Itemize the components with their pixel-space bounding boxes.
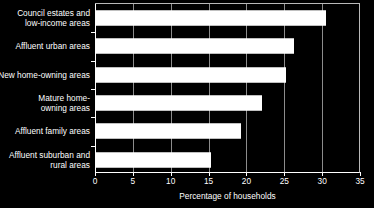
x-axis-tick-label: 35 — [355, 177, 364, 186]
x-axis-tick-label: 0 — [93, 177, 98, 186]
x-axis-tick-label: 5 — [131, 177, 136, 186]
y-axis-category-label: Affluent family areas — [0, 126, 90, 136]
x-axis-tick-label: 25 — [280, 177, 289, 186]
plot-area: Council estates and low-income areasAffl… — [95, 3, 360, 173]
bar-row: Affluent suburban and rural areas — [95, 146, 359, 174]
y-axis-tick — [91, 61, 95, 62]
bar — [95, 39, 294, 54]
x-axis-tick-label: 30 — [318, 177, 327, 186]
bar-row: Council estates and low-income areas — [95, 4, 359, 32]
bar — [95, 11, 326, 26]
x-axis-tick-label: 10 — [166, 177, 175, 186]
bar-row: New home-owning areas — [95, 61, 359, 89]
y-axis-tick — [91, 146, 95, 147]
bar — [95, 96, 262, 111]
bar — [95, 67, 286, 82]
bar-row: Mature home- owning areas — [95, 89, 359, 117]
y-axis-category-label: Council estates and low-income areas — [0, 8, 90, 28]
y-axis-tick — [91, 32, 95, 33]
y-axis-category-label: Affluent suburban and rural areas — [0, 150, 90, 170]
y-axis-category-label: Mature home- owning areas — [0, 93, 90, 113]
bar — [95, 152, 211, 167]
bar-chart: Council estates and low-income areasAffl… — [0, 0, 374, 208]
y-axis-category-label: Affluent urban areas — [0, 41, 90, 51]
y-axis-tick — [91, 89, 95, 90]
bar-row: Affluent family areas — [95, 117, 359, 145]
bar-row: Affluent urban areas — [95, 32, 359, 60]
y-axis-category-label: New home-owning areas — [0, 70, 90, 80]
x-axis-tick-label: 15 — [204, 177, 213, 186]
bar — [95, 124, 241, 139]
x-axis-tick-label: 20 — [242, 177, 251, 186]
x-axis-title: Percentage of households — [95, 191, 360, 201]
y-axis-tick — [91, 117, 95, 118]
